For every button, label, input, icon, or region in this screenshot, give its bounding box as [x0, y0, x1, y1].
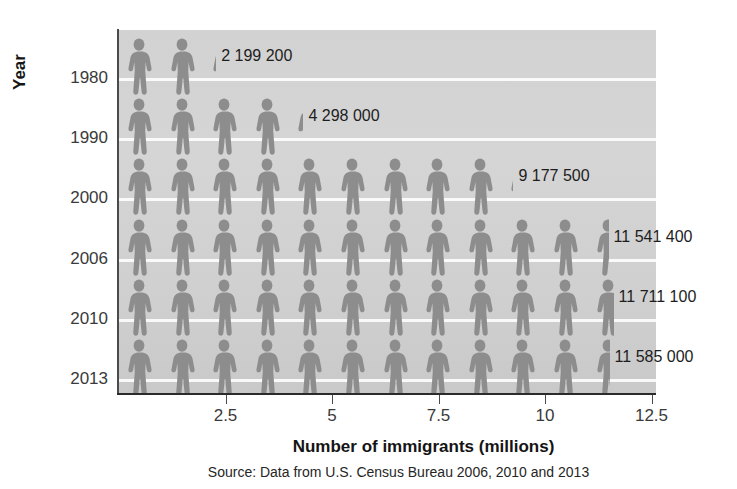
person-icon [125, 98, 153, 156]
x-tick-label-12.5: 12.5 [635, 406, 668, 426]
pictogram-row-2010 [119, 279, 656, 339]
x-tick-mark-12.5 [652, 395, 653, 404]
y-axis-tick-labels: 198019902000200620102013 [42, 0, 108, 489]
value-label-2006: 11 541 400 [614, 229, 693, 245]
person-icon [466, 219, 494, 277]
person-icon [338, 219, 366, 277]
person-icon [168, 98, 196, 156]
x-tick-mark-5 [332, 395, 333, 404]
y-tick-label-2006: 2006 [46, 250, 108, 267]
source-note: Source: Data from U.S. Census Bureau 200… [0, 464, 737, 480]
person-icon [423, 219, 451, 277]
person-icon [381, 219, 409, 277]
person-icon [551, 279, 579, 337]
person-icon [466, 279, 494, 337]
person-icon [295, 158, 323, 216]
person-icon [295, 339, 323, 393]
person-icon [466, 158, 494, 216]
x-axis-title: Number of immigrants (millions) [0, 437, 737, 457]
person-icon-partial [594, 279, 614, 337]
pictogram-row-1980 [119, 38, 656, 98]
pictogram-row-2013 [119, 339, 656, 393]
x-tick-mark-7.5 [439, 395, 440, 404]
person-icon [338, 279, 366, 337]
person-icon [253, 219, 281, 277]
y-tick-label-1980: 1980 [46, 69, 108, 86]
pictogram-row-2006 [119, 219, 656, 279]
value-label-1980: 2 199 200 [221, 48, 292, 64]
person-icon [168, 339, 196, 393]
person-icon [508, 279, 536, 337]
person-icon-partial [594, 339, 610, 393]
y-tick-label-2013: 2013 [46, 370, 108, 387]
person-icon [168, 38, 196, 96]
person-icon [338, 158, 366, 216]
person-icon-partial [210, 38, 216, 96]
x-tick-label-10: 10 [536, 406, 555, 426]
person-icon [168, 219, 196, 277]
x-tick-mark-2.5 [226, 395, 227, 404]
value-label-2010: 11 711 100 [619, 289, 697, 305]
person-icon [295, 279, 323, 337]
person-icon [210, 279, 238, 337]
person-icon [508, 219, 536, 277]
person-icon [210, 98, 238, 156]
person-icon [423, 158, 451, 216]
y-tick-label-1990: 1990 [46, 129, 108, 146]
person-icon [551, 339, 579, 393]
pictogram-row-1990 [119, 98, 656, 158]
person-icon [423, 339, 451, 393]
person-icon-partial [295, 98, 303, 156]
person-icon [210, 158, 238, 216]
person-icon [381, 339, 409, 393]
x-tick-label-7.5: 7.5 [427, 406, 451, 426]
person-icon [253, 279, 281, 337]
person-icon [295, 219, 323, 277]
plot-area: 2 199 2004 298 0009 177 500 [119, 30, 656, 393]
person-icon-partial [594, 219, 609, 277]
person-icon [168, 279, 196, 337]
value-label-2000: 9 177 500 [518, 168, 589, 184]
value-label-2013: 11 585 000 [615, 349, 694, 365]
person-icon [253, 98, 281, 156]
y-tick-label-2000: 2000 [46, 189, 108, 206]
person-icon [381, 279, 409, 337]
person-icon [466, 339, 494, 393]
y-axis-title: Year [10, 54, 30, 90]
person-icon [253, 158, 281, 216]
person-icon [125, 158, 153, 216]
person-icon [210, 339, 238, 393]
person-icon [423, 279, 451, 337]
value-label-1990: 4 298 000 [308, 108, 379, 124]
person-icon [125, 219, 153, 277]
person-icon-partial [508, 158, 513, 216]
person-icon [508, 339, 536, 393]
person-icon [253, 339, 281, 393]
person-icon [125, 339, 153, 393]
person-icon [551, 219, 579, 277]
person-icon [125, 279, 153, 337]
person-icon [338, 339, 366, 393]
person-icon [125, 38, 153, 96]
person-icon [168, 158, 196, 216]
person-icon [381, 158, 409, 216]
x-tick-label-2.5: 2.5 [214, 406, 238, 426]
person-icon [210, 219, 238, 277]
x-axis-line [117, 393, 656, 395]
x-tick-mark-10 [545, 395, 546, 404]
y-tick-label-2010: 2010 [46, 310, 108, 327]
x-tick-label-5: 5 [327, 406, 336, 426]
